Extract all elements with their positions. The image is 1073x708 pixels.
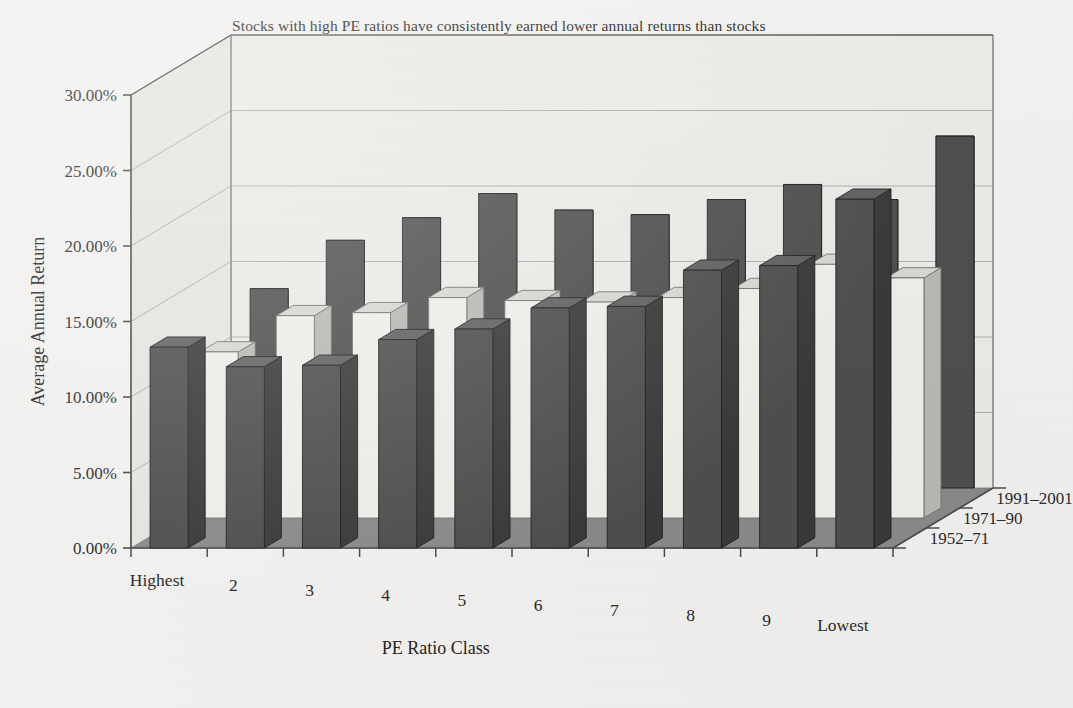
bar-side-face <box>569 298 586 548</box>
x-category-label: 5 <box>458 590 467 610</box>
bar-column <box>455 319 510 548</box>
bar-front-face <box>836 199 874 548</box>
bar-column <box>607 296 662 548</box>
x-axis-title: PE Ratio Class <box>382 638 490 658</box>
bar-front-face <box>886 278 924 518</box>
series-depth-label: 1991–2001 <box>996 489 1072 508</box>
bar-side-face <box>341 355 358 548</box>
bar-column <box>531 298 586 548</box>
bar-front-face <box>302 365 340 548</box>
x-category-label: 8 <box>686 605 695 625</box>
series-depth-label: 1971–90 <box>963 509 1023 528</box>
x-category-label: 3 <box>305 580 314 600</box>
series-depth-label: 1952–71 <box>930 529 990 548</box>
bar-column <box>302 355 357 548</box>
bar-front-face <box>936 136 974 488</box>
x-category-label: 6 <box>534 595 543 615</box>
x-category-label: Highest <box>130 570 185 590</box>
y-tick-label: 25.00% <box>65 162 117 181</box>
bar-column <box>760 255 815 548</box>
bar-front-face <box>379 340 417 548</box>
x-category-label: 9 <box>762 610 771 630</box>
bar-side-face <box>645 296 662 548</box>
bar-side-face <box>924 268 941 518</box>
y-tick-label: 0.00% <box>73 539 117 558</box>
bar-side-face <box>417 329 434 548</box>
bar-side-face <box>188 337 205 548</box>
x-axis-tick-labels: Highest23456789Lowest <box>130 570 869 635</box>
y-tick-label: 5.00% <box>73 464 117 483</box>
bar-column <box>836 189 891 548</box>
bar-column <box>683 260 738 548</box>
bar-column <box>886 268 941 518</box>
y-tick-label: 15.00% <box>65 313 117 332</box>
y-tick-label: 10.00% <box>65 388 117 407</box>
y-axis-tick-labels: 0.00%5.00%10.00%15.00%20.00%25.00%30.00% <box>65 86 117 558</box>
bar-front-face <box>455 329 493 548</box>
y-axis-title: Average Annual Return <box>28 237 48 407</box>
three-d-column-chart: 0.00%5.00%10.00%15.00%20.00%25.00%30.00%… <box>0 0 1073 708</box>
bar-side-face <box>798 255 815 548</box>
bar-side-face <box>493 319 510 548</box>
chart-page: Stocks with high PE ratios have consiste… <box>0 0 1073 708</box>
bar-side-face <box>264 357 281 548</box>
bar-front-face <box>683 270 721 548</box>
bar-column <box>379 329 434 548</box>
bar-front-face <box>760 266 798 548</box>
x-category-label: 2 <box>229 575 238 595</box>
y-tick-label: 30.00% <box>65 86 117 105</box>
bar-column <box>936 136 974 488</box>
bar-front-face <box>607 306 645 548</box>
bar-front-face <box>226 367 264 548</box>
bar-column <box>226 357 281 548</box>
bar-front-face <box>150 347 188 548</box>
x-category-label: 4 <box>381 585 390 605</box>
x-category-label: 7 <box>610 600 619 620</box>
x-category-label: Lowest <box>817 615 869 635</box>
bar-side-face <box>722 260 739 548</box>
bar-front-face <box>531 308 569 548</box>
bar-column <box>150 337 205 548</box>
bar-side-face <box>874 189 891 548</box>
y-tick-label: 20.00% <box>65 237 117 256</box>
